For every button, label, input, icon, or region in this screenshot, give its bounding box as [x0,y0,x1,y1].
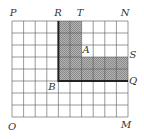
point-label-r: R [53,7,62,18]
point-label-n: N [120,7,131,18]
point-label-b: B [47,81,55,92]
point-label-q: Q [129,75,137,86]
grid-lines [12,21,128,117]
point-label-m: M [120,119,132,130]
grid-diagram: PRTNASQBOM [0,0,144,139]
point-label-s: S [130,49,137,60]
point-label-p: P [9,7,17,18]
point-label-o: O [8,121,16,132]
point-label-a: A [81,44,89,55]
point-label-t: T [77,7,85,18]
